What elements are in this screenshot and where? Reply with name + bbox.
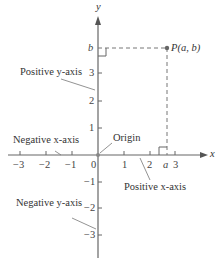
x-tick-label: 2: [147, 160, 152, 171]
point-p-label: P(a, b): [171, 43, 200, 54]
y-tick-label: −2: [84, 203, 95, 214]
right-angle-marker-x: [159, 147, 167, 155]
y-tick-label: −1: [84, 177, 95, 188]
leader-negative-y: [72, 218, 96, 229]
coordinate-plane: [0, 0, 219, 263]
y-tick-label: 2: [89, 96, 94, 107]
leader-origin: [100, 143, 112, 153]
y-axis-label: y: [96, 2, 101, 13]
right-angle-marker-y: [98, 48, 106, 56]
x-axis-label: x: [210, 149, 215, 160]
y-tick-label: 1: [89, 123, 94, 134]
origin-annotation: Origin: [113, 133, 140, 144]
x-tick-label: 1: [122, 160, 127, 171]
positive-y-axis-annotation: Positive y-axis: [20, 67, 82, 78]
point-p: [165, 46, 169, 50]
leader-positive-y: [61, 79, 95, 90]
x-axis-arrow-icon: [200, 152, 208, 158]
x-tick-label: −2: [39, 160, 50, 171]
positive-x-axis-annotation: Positive x-axis: [124, 182, 186, 193]
origin-dot: [96, 153, 100, 157]
x-tick-label: 3: [173, 160, 178, 171]
y-marker-b: b: [88, 43, 93, 54]
y-axis-arrow-icon: [95, 16, 101, 25]
y-tick-label: 3: [89, 68, 94, 79]
y-tick-label: −3: [84, 230, 95, 241]
x-tick-label: −3: [13, 160, 24, 171]
x-marker-a: a: [163, 160, 168, 171]
x-tick-label: 0: [91, 160, 96, 171]
negative-y-axis-annotation: Negative y-axis: [16, 198, 82, 209]
negative-x-axis-annotation: Negative x-axis: [13, 135, 79, 146]
x-tick-label: −1: [65, 160, 76, 171]
